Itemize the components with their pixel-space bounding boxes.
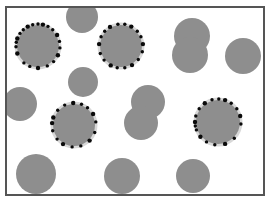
plain-particle	[176, 159, 210, 193]
nanoparticle-dot	[223, 142, 227, 146]
nanoparticle-dot	[137, 58, 140, 61]
nanoparticle-dot	[198, 135, 202, 139]
nanoparticle-dot	[80, 103, 83, 106]
plain-particle	[124, 106, 158, 140]
plain-particle	[68, 67, 98, 97]
nanoparticle-dot	[36, 66, 40, 70]
nanoparticle-dot	[103, 30, 106, 33]
nanoparticle-dot	[233, 137, 236, 140]
nanoparticle-dot	[15, 51, 19, 55]
nanoparticle-dot	[238, 114, 242, 118]
nanoparticle-dot	[58, 40, 61, 43]
particle-diagram	[0, 0, 269, 199]
nanoparticle-dot	[61, 142, 65, 146]
nanoparticle-dot	[205, 140, 208, 143]
nanoparticle-dot	[194, 114, 197, 117]
nanoparticle-dot	[55, 33, 59, 37]
nanoparticle-dot	[52, 60, 55, 63]
nanoparticle-dot	[108, 25, 112, 29]
plain-particle	[3, 87, 37, 121]
nanoparticle-dot	[46, 25, 49, 28]
nanoparticle-dot	[94, 120, 97, 123]
nanoparticle-dot	[194, 124, 197, 127]
nanoparticle-dot	[41, 22, 45, 26]
nanoparticle-dot	[86, 106, 89, 109]
nanoparticle-dot	[217, 97, 220, 100]
nanoparticle-dot	[71, 101, 75, 105]
nanoparticle-dot	[56, 109, 59, 112]
nanoparticle-dot	[18, 32, 21, 35]
nanoparticle-dot	[97, 42, 101, 46]
nanoparticle-dot	[223, 98, 227, 102]
nanoparticle-dot	[51, 115, 55, 119]
nanoparticle-dot	[15, 36, 19, 40]
nanoparticle-dot	[195, 128, 198, 131]
nanoparticle-dot	[102, 58, 105, 61]
plain-particle	[225, 38, 261, 74]
nanoparticle-dot	[14, 45, 17, 48]
nanoparticle-dot	[93, 131, 96, 134]
nanoparticle-dot	[210, 98, 213, 101]
nanoparticle-dot	[130, 63, 134, 67]
nanoparticle-dot	[141, 50, 144, 53]
nanoparticle-dot	[129, 24, 133, 28]
plain-particle	[104, 158, 140, 194]
nanoparticle-dot	[31, 23, 34, 26]
nanoparticle-dot	[22, 28, 25, 31]
nanoparticle-dot	[198, 107, 201, 110]
nanoparticle-dot	[50, 121, 54, 125]
nanoparticle-dot	[193, 120, 197, 124]
nanoparticle-dot	[213, 143, 216, 146]
nanoparticle-dot	[136, 30, 139, 33]
nanoparticle-dot	[63, 103, 66, 106]
nanoparticle-dot	[141, 42, 145, 46]
nanoparticle-dot	[109, 63, 113, 67]
nanoparticle-dot	[99, 52, 102, 55]
nanoparticle-dot	[55, 137, 58, 140]
nanoparticle-dot	[116, 66, 119, 69]
nanoparticle-dot	[139, 35, 142, 38]
nanoparticle-dot	[239, 122, 242, 125]
nanoparticle-dot	[123, 66, 126, 69]
nanoparticle-dot	[230, 102, 233, 105]
plain-particle	[16, 154, 56, 194]
nanoparticle-dot	[70, 145, 73, 148]
nanoparticle-dot	[56, 53, 60, 57]
nanoparticle-dot	[46, 64, 49, 67]
nanoparticle-dot	[36, 22, 39, 25]
nanoparticle-dot	[22, 61, 25, 64]
nanoparticle-dot	[51, 129, 54, 132]
nanoparticle-dot	[28, 65, 31, 68]
nanoparticle-dot	[87, 138, 91, 142]
nanoparticle-dot	[235, 107, 238, 110]
nanoparticle-dot	[99, 35, 102, 38]
nanoparticle-dot	[51, 28, 54, 31]
nanoparticle-dot	[203, 101, 207, 105]
nanoparticle-dot	[116, 23, 119, 26]
nanoparticle-dot	[79, 144, 82, 147]
nanoparticle-dot	[58, 46, 61, 49]
nanoparticle-dot	[15, 41, 18, 44]
plain-particle	[172, 37, 208, 73]
nanoparticle-dot	[26, 24, 30, 28]
nanoparticle-dot	[123, 23, 126, 26]
nanoparticle-dot	[91, 112, 95, 116]
